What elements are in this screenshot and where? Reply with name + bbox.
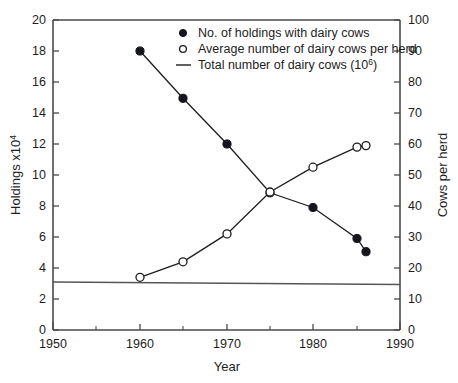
legend-label-total-tail: ) — [373, 58, 377, 72]
series-total-dairy-cows — [53, 282, 400, 285]
left-axis-ticks — [53, 20, 59, 330]
left-tick-label: 2 — [39, 292, 46, 306]
cows-per-herd-data-point — [362, 142, 370, 150]
x-tick-label: 1960 — [126, 337, 154, 351]
series-holdings-with-dairy-cows — [136, 47, 370, 256]
left-tick-label: 0 — [39, 323, 46, 337]
left-tick-label: 10 — [32, 168, 46, 182]
legend-label-total-dairy-cows: Total number of dairy cows (106) — [198, 57, 377, 72]
holdings-data-point — [136, 47, 144, 55]
cows-per-herd-data-point — [179, 258, 187, 266]
left-tick-label: 20 — [32, 13, 46, 27]
right-tick-label: 0 — [408, 323, 415, 337]
x-tick-label: 1990 — [386, 337, 414, 351]
legend-label-total-text: Total number of dairy cows (10 — [198, 58, 368, 72]
right-tick-label: 30 — [408, 230, 422, 244]
left-tick-label: 18 — [32, 44, 46, 58]
left-tick-label: 12 — [32, 137, 46, 151]
right-axis-tick-labels: 0 10 20 30 40 50 60 70 80 90 100 — [408, 13, 429, 337]
x-tick-label: 1970 — [213, 337, 241, 351]
left-tick-label: 14 — [32, 106, 46, 120]
svg-text:Holdings x104: Holdings x104 — [8, 135, 23, 215]
cows-per-herd-data-point — [353, 143, 361, 151]
left-tick-label: 16 — [32, 75, 46, 89]
x-tick-label: 1980 — [299, 337, 327, 351]
right-axis-ticks — [394, 20, 400, 330]
y-left-axis-exponent: 4 — [8, 135, 18, 140]
cows-per-herd-data-point — [266, 188, 274, 196]
legend-label-cows-per-herd: Average number of dairy cows per herd — [198, 42, 417, 56]
y-left-axis-title-group: Holdings x104 — [8, 135, 23, 215]
holdings-data-point — [362, 248, 370, 256]
left-tick-label: 4 — [39, 261, 46, 275]
legend-open-circle-icon — [180, 46, 187, 53]
right-tick-label: 50 — [408, 168, 422, 182]
right-tick-label: 60 — [408, 137, 422, 151]
x-axis-ticks — [53, 322, 400, 330]
chart-figure: 0 2 4 6 8 10 12 14 16 18 20 0 — [0, 0, 458, 383]
right-tick-label: 80 — [408, 75, 422, 89]
chart-legend: No. of holdings with dairy cows Average … — [176, 26, 417, 72]
holdings-series-line — [140, 51, 366, 252]
cows-per-herd-data-point — [136, 273, 144, 281]
series-cows-per-herd — [136, 142, 370, 282]
y-left-axis-title: Holdings x10 — [8, 140, 23, 215]
left-tick-label: 6 — [39, 230, 46, 244]
y-right-axis-title: Cows per herd — [435, 133, 450, 218]
right-tick-label: 20 — [408, 261, 422, 275]
left-axis-tick-labels: 0 2 4 6 8 10 12 14 16 18 20 — [32, 13, 46, 337]
x-axis-tick-labels: 1950 1960 1970 1980 1990 — [39, 337, 414, 351]
right-tick-label: 70 — [408, 106, 422, 120]
holdings-data-point — [309, 203, 317, 211]
holdings-data-point — [353, 234, 361, 242]
right-tick-label: 100 — [408, 13, 429, 27]
y-right-axis-title-group: Cows per herd — [435, 133, 450, 218]
cows-per-herd-data-point — [309, 163, 317, 171]
legend-filled-circle-icon — [179, 29, 186, 36]
holdings-data-point — [223, 140, 231, 148]
dairy-cows-line-chart: 0 2 4 6 8 10 12 14 16 18 20 0 — [0, 0, 458, 383]
right-tick-label: 10 — [408, 292, 422, 306]
right-tick-label: 40 — [408, 199, 422, 213]
left-tick-label: 8 — [39, 199, 46, 213]
x-tick-label: 1950 — [39, 337, 67, 351]
x-axis-title: Year — [214, 359, 241, 374]
holdings-data-point — [179, 94, 187, 102]
cows-per-herd-data-point — [223, 230, 231, 238]
cows-per-herd-series-line — [140, 146, 366, 278]
total-dairy-cows-line — [53, 282, 400, 285]
legend-label-holdings: No. of holdings with dairy cows — [198, 26, 370, 40]
